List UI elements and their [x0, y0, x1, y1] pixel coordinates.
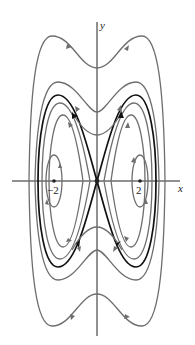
arrow-icon: [70, 314, 75, 320]
center-point-right: [138, 179, 142, 183]
y-axis-label: y: [99, 19, 105, 31]
tick-label-neg-two: −2: [47, 184, 59, 196]
arrow-icon: [58, 163, 62, 168]
arrow-icon: [124, 314, 130, 319]
arrow-icon: [75, 106, 80, 112]
center-point-left: [52, 179, 56, 183]
phase-portrait: x y −2 2: [0, 0, 195, 345]
arrow-icon: [125, 122, 130, 128]
x-axis-label: x: [177, 182, 183, 194]
arrow-icon: [124, 45, 129, 51]
saddle-point: [95, 179, 100, 184]
arrow-icon: [117, 105, 122, 112]
tick-label-pos-two: 2: [136, 184, 142, 196]
